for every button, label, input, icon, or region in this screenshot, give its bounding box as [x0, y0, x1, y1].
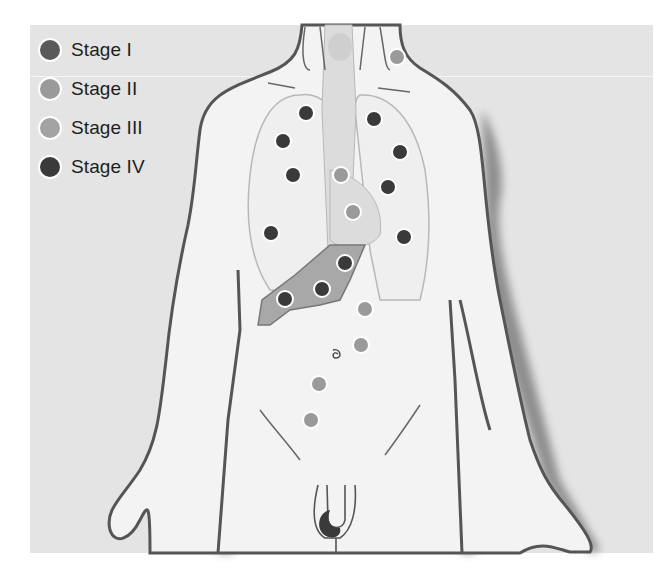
thyroid	[328, 33, 352, 61]
marker-stage-ii	[303, 412, 319, 428]
marker-stage-iv	[277, 291, 293, 307]
marker-stage-ii	[311, 376, 327, 392]
legend-label: Stage III	[71, 117, 143, 139]
marker-stage-ii	[333, 167, 349, 183]
marker-stage-iv	[285, 167, 301, 183]
marker-stage-iv	[275, 133, 291, 149]
legend-item-stage-4: Stage IV	[38, 147, 145, 186]
marker-stage-ii	[389, 49, 405, 65]
stage-1-dot-icon	[38, 38, 62, 62]
legend-item-stage-1: Stage I	[38, 30, 145, 69]
legend-item-stage-2: Stage II	[38, 69, 145, 108]
marker-stage-iv	[380, 179, 396, 195]
marker-stage-iv	[396, 229, 412, 245]
marker-stage-iv	[392, 144, 408, 160]
marker-stage-ii	[353, 337, 369, 353]
legend-label: Stage IV	[71, 156, 145, 178]
legend-label: Stage I	[71, 39, 132, 61]
stage-4-dot-icon	[38, 155, 62, 179]
marker-stage-iv	[337, 255, 353, 271]
marker-stage-iv	[298, 105, 314, 121]
legend: Stage I Stage II Stage III Stage IV	[38, 30, 145, 186]
marker-stage-iv	[314, 281, 330, 297]
legend-label: Stage II	[71, 78, 137, 100]
stage-3-dot-icon	[38, 116, 62, 140]
stage-2-dot-icon	[38, 77, 62, 101]
legend-item-stage-3: Stage III	[38, 108, 145, 147]
marker-stage-iv	[366, 111, 382, 127]
marker-stage-ii	[357, 301, 373, 317]
marker-stage-ii	[345, 204, 361, 220]
marker-stage-iv	[263, 225, 279, 241]
